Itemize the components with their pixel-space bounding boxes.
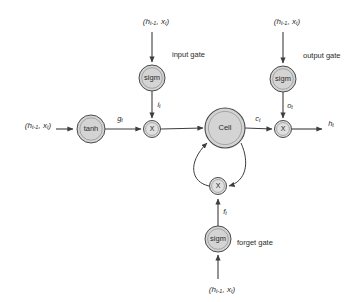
input-gate-label: input gate bbox=[172, 50, 205, 59]
svg-text:ft: ft bbox=[223, 207, 227, 217]
signal-f-t: ft bbox=[223, 207, 227, 217]
input-fg-close: ) bbox=[232, 285, 236, 294]
multiply-input-label: X bbox=[150, 125, 155, 132]
cell-node[interactable]: Cell bbox=[205, 108, 245, 148]
svg-text:ht: ht bbox=[328, 119, 334, 129]
forget-gate-sigm-label: sigm bbox=[210, 234, 226, 243]
svg-text:(ht-1, xt): (ht-1, xt) bbox=[274, 17, 301, 27]
signal-o-t-sub: t bbox=[291, 105, 293, 111]
signal-g-t: gt bbox=[117, 114, 123, 124]
multiply-forget-node[interactable]: X bbox=[210, 178, 227, 195]
svg-text:(ht-1, xt): (ht-1, xt) bbox=[25, 121, 52, 131]
tanh-node[interactable]: tanh bbox=[77, 115, 105, 143]
signal-h-t-sub: t bbox=[332, 123, 334, 129]
signal-c-t: ct bbox=[255, 114, 261, 124]
forget-gate-label: forget gate bbox=[237, 238, 273, 247]
output-gate-label: output gate bbox=[303, 51, 341, 60]
edge-cell-to-mul-output bbox=[245, 128, 272, 129]
output-gate-sigm-node[interactable]: sigm bbox=[270, 66, 296, 92]
edge-mul-input-to-cell bbox=[161, 128, 203, 129]
signal-c-t-sub: t bbox=[259, 118, 261, 124]
output-gate-sigm-label: sigm bbox=[275, 74, 291, 83]
tanh-node-label: tanh bbox=[84, 124, 99, 133]
signal-i-t: it bbox=[157, 100, 161, 110]
input-label-forget-gate: (ht-1, xt) bbox=[209, 285, 236, 295]
input-label-left: (ht-1, xt) bbox=[25, 121, 52, 131]
multiply-input-node[interactable]: X bbox=[144, 121, 161, 138]
svg-text:(ht-1, xt): (ht-1, xt) bbox=[209, 285, 236, 295]
svg-text:it: it bbox=[157, 100, 161, 110]
signal-o-t: ot bbox=[287, 101, 293, 111]
forget-gate-sigm-node[interactable]: sigm bbox=[205, 226, 231, 252]
svg-text:ot: ot bbox=[287, 101, 293, 111]
edge-cell-to-mul-forget-loop bbox=[229, 143, 246, 186]
input-left-close: ) bbox=[48, 121, 52, 130]
signal-f-t-sub: t bbox=[225, 211, 227, 217]
signal-i-t-sub: t bbox=[159, 104, 161, 110]
multiply-forget-label: X bbox=[216, 182, 221, 189]
input-label-output-gate: (ht-1, xt) bbox=[274, 17, 301, 27]
input-gate-sigm-node[interactable]: sigm bbox=[139, 65, 165, 91]
input-ig-close: ) bbox=[166, 17, 170, 26]
input-label-input-gate: (ht-1, xt) bbox=[143, 17, 170, 27]
svg-text:gt: gt bbox=[117, 114, 123, 124]
svg-text:ct: ct bbox=[255, 114, 261, 124]
signal-h-t-output: ht bbox=[328, 119, 334, 129]
edge-mul-forget-to-cell-loop bbox=[194, 143, 209, 186]
input-gate-sigm-label: sigm bbox=[144, 73, 160, 82]
cell-node-label: Cell bbox=[219, 123, 232, 132]
lstm-diagram-canvas: tanh sigm sigm sigm Cell bbox=[0, 0, 352, 302]
signal-g-t-sub: t bbox=[121, 118, 123, 124]
input-og-close: ) bbox=[297, 17, 301, 26]
multiply-output-label: X bbox=[281, 125, 286, 132]
svg-text:(ht-1, xt): (ht-1, xt) bbox=[143, 17, 170, 27]
lstm-diagram: tanh sigm sigm sigm Cell bbox=[0, 0, 352, 302]
multiply-output-node[interactable]: X bbox=[275, 121, 292, 138]
